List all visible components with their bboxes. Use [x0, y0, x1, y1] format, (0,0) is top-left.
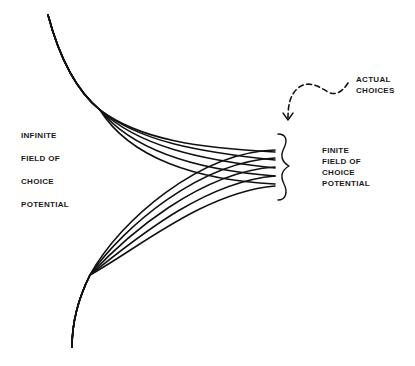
- actual-choices-label: ACTUAL CHOICES: [356, 74, 395, 96]
- right-label-line: CHOICE: [322, 167, 370, 178]
- left-label-line: INFINITE: [21, 130, 69, 141]
- curly-brace-icon: [278, 134, 289, 200]
- upper-strand-bundle: [48, 15, 275, 184]
- dashed-curved-arrow-icon: [288, 83, 348, 118]
- left-label-line: FIELD OF: [21, 153, 69, 164]
- callout-label-line: CHOICES: [356, 85, 395, 96]
- left-label-line: POTENTIAL: [21, 199, 69, 210]
- finite-field-label: FINITE FIELD OF CHOICE POTENTIAL: [322, 145, 370, 189]
- choice-field-diagram: INFINITE FIELD OF CHOICE POTENTIAL ACTUA…: [0, 0, 415, 366]
- infinite-field-label: INFINITE FIELD OF CHOICE POTENTIAL: [21, 130, 69, 210]
- left-label-line: CHOICE: [21, 176, 69, 187]
- lower-strand-bundle: [72, 150, 275, 347]
- right-label-line: FINITE: [322, 145, 370, 156]
- right-label-line: POTENTIAL: [322, 178, 370, 189]
- callout-label-line: ACTUAL: [356, 74, 395, 85]
- right-label-line: FIELD OF: [322, 156, 370, 167]
